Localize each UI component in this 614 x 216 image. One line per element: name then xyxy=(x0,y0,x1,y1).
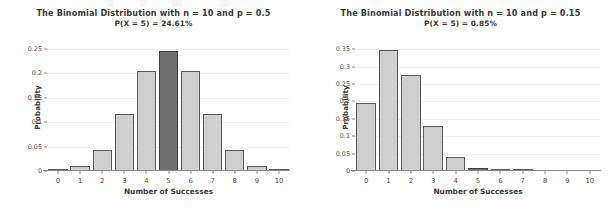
y-tick-label: 0.05 xyxy=(336,150,350,158)
bar xyxy=(423,126,443,171)
bars-right xyxy=(355,44,601,171)
y-tick-label: 0.15 xyxy=(28,94,42,102)
x-tick-mark xyxy=(278,171,279,174)
y-tick-label: 0.2 xyxy=(340,97,350,105)
y-tick-label: 0.15 xyxy=(336,115,350,123)
bar xyxy=(115,114,134,171)
bar xyxy=(181,71,200,171)
x-tick-mark xyxy=(410,171,411,174)
x-tick-mark xyxy=(500,171,501,174)
chart-title-block-left: The Binomial Distribution with n = 10 an… xyxy=(0,9,307,29)
x-tick-mark xyxy=(124,171,125,174)
x-tick-label: 5 xyxy=(476,177,480,185)
x-tick-label: 8 xyxy=(543,177,547,185)
x-tick-label: 3 xyxy=(122,177,126,185)
x-tick-label: 4 xyxy=(453,177,457,185)
bar-highlighted xyxy=(159,51,178,171)
plot-area-left: Probability 00.050.10.150.20.25 01234567… xyxy=(47,44,290,171)
chart-title: The Binomial Distribution with n = 10 an… xyxy=(0,9,307,18)
chart-panel-right: The Binomial Distribution with n = 10 an… xyxy=(307,0,614,216)
bars-left xyxy=(47,44,290,171)
chart-panel-left: The Binomial Distribution with n = 10 an… xyxy=(0,0,307,216)
bar xyxy=(203,114,222,171)
x-tick-label: 4 xyxy=(144,177,148,185)
x-tick-label: 9 xyxy=(255,177,259,185)
x-tick-mark xyxy=(168,171,169,174)
x-tick-mark xyxy=(80,171,81,174)
bar xyxy=(379,50,399,171)
y-tick-label: 0.25 xyxy=(336,80,350,88)
x-tick-label: 1 xyxy=(78,177,82,185)
x-axis-label: Number of Successes xyxy=(47,187,290,196)
x-tick-mark xyxy=(234,171,235,174)
x-tick-label: 10 xyxy=(275,177,284,185)
bar xyxy=(446,157,466,171)
binomial-distribution-figure: The Binomial Distribution with n = 10 an… xyxy=(0,0,614,216)
x-tick-label: 6 xyxy=(498,177,502,185)
x-tick-mark xyxy=(455,171,456,174)
bar xyxy=(225,150,244,171)
y-tick-label: 0.25 xyxy=(28,45,42,53)
x-tick-mark xyxy=(433,171,434,174)
y-tick-label: 0.3 xyxy=(340,63,350,71)
y-tick-label: 0.2 xyxy=(32,69,42,77)
bar xyxy=(356,103,376,172)
chart-title-block-right: The Binomial Distribution with n = 10 an… xyxy=(307,9,614,29)
y-tick-label: 0 xyxy=(38,167,42,175)
x-tick-mark xyxy=(366,171,367,174)
bar xyxy=(93,150,112,171)
x-tick-mark xyxy=(58,171,59,174)
x-tick-mark xyxy=(388,171,389,174)
x-tick-label: 2 xyxy=(100,177,104,185)
x-tick-mark xyxy=(545,171,546,174)
x-tick-mark xyxy=(567,171,568,174)
x-tick-label: 0 xyxy=(56,177,60,185)
x-tick-mark xyxy=(146,171,147,174)
x-tick-mark xyxy=(589,171,590,174)
chart-subtitle: P(X = 5) = 0.85% xyxy=(307,20,614,29)
y-axis-label: Probability xyxy=(33,77,42,137)
plot-area-right: Probability 00.050.10.150.20.250.30.35 0… xyxy=(355,44,601,171)
x-tick-mark xyxy=(256,171,257,174)
y-tick-label: 0.05 xyxy=(28,143,42,151)
x-tick-label: 0 xyxy=(364,177,368,185)
y-tick-label: 0.35 xyxy=(336,45,350,53)
y-tick-label: 0.1 xyxy=(340,132,350,140)
x-tick-label: 3 xyxy=(431,177,435,185)
x-tick-label: 10 xyxy=(585,177,594,185)
x-tick-label: 9 xyxy=(565,177,569,185)
chart-subtitle: P(X = 5) = 24.61% xyxy=(0,20,307,29)
x-tick-label: 5 xyxy=(166,177,170,185)
x-axis-label: Number of Successes xyxy=(355,187,601,196)
y-tick-label: 0.1 xyxy=(32,118,42,126)
bar xyxy=(401,75,421,171)
x-tick-mark xyxy=(102,171,103,174)
x-tick-mark xyxy=(522,171,523,174)
x-tick-label: 7 xyxy=(211,177,215,185)
x-tick-mark xyxy=(478,171,479,174)
chart-title: The Binomial Distribution with n = 10 an… xyxy=(307,9,614,18)
x-tick-label: 6 xyxy=(188,177,192,185)
x-tick-label: 1 xyxy=(386,177,390,185)
x-tick-label: 2 xyxy=(409,177,413,185)
bar xyxy=(137,71,156,171)
x-tick-mark xyxy=(190,171,191,174)
x-tick-label: 8 xyxy=(233,177,237,185)
y-tick-label: 0 xyxy=(346,167,350,175)
x-tick-label: 7 xyxy=(521,177,525,185)
x-tick-mark xyxy=(212,171,213,174)
